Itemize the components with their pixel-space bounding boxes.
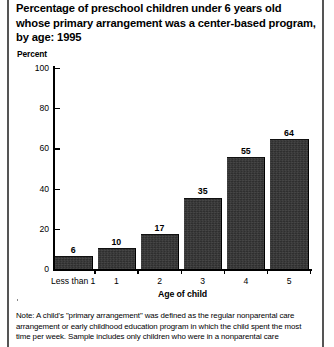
chart-title: Percentage of preschool children under 6…: [16, 1, 316, 45]
bar-value-label: 6: [71, 245, 76, 255]
stray-speck: [17, 299, 18, 301]
bar-value-label: 10: [111, 237, 121, 247]
page-right-rule: [322, 0, 324, 347]
plot-area: 020406080100 61017355564 Less than 11234…: [53, 66, 312, 271]
y-tick-label: 0: [44, 264, 49, 274]
y-tick-mark: [55, 189, 60, 190]
y-axis-line: [53, 66, 55, 271]
x-tick-mark: [224, 269, 225, 274]
y-tick-mark: [55, 148, 60, 149]
bar: [184, 198, 222, 270]
bar-value-label: 35: [198, 186, 208, 196]
y-tick-mark: [55, 108, 60, 109]
x-tick-label: Less than 1: [51, 276, 95, 286]
x-tick-mark: [181, 269, 182, 274]
bar: [270, 139, 308, 269]
y-tick-label: 40: [39, 184, 49, 194]
y-tick-label: 80: [39, 103, 49, 113]
bar: [227, 157, 265, 269]
x-tick-mark: [94, 269, 95, 274]
x-tick-label: 1: [114, 276, 119, 286]
bar: [98, 248, 136, 269]
x-tick-label: 5: [287, 276, 292, 286]
figure-note: Note: A child's "primary arrangement" wa…: [16, 311, 315, 343]
x-tick-mark: [137, 269, 138, 274]
x-tick-mark: [310, 269, 311, 274]
x-tick-label: 3: [200, 276, 205, 286]
x-tick-mark: [267, 269, 268, 274]
y-tick-label: 100: [35, 63, 49, 73]
bar: [141, 234, 179, 269]
x-axis-line: [53, 269, 312, 271]
bar: [55, 256, 93, 269]
x-axis-title: Age of child: [53, 289, 312, 299]
x-tick-label: 2: [157, 276, 162, 286]
y-axis-unit-label: Percent: [17, 49, 47, 59]
bar-value-label: 17: [155, 223, 165, 233]
y-tick-label: 20: [39, 224, 49, 234]
y-tick-mark: [55, 68, 60, 69]
x-tick-label: 4: [243, 276, 248, 286]
page-left-rule: [7, 0, 9, 347]
bar-value-label: 55: [241, 146, 251, 156]
y-tick-mark: [55, 269, 60, 270]
y-tick-label: 60: [39, 143, 49, 153]
bar-value-label: 64: [284, 128, 294, 138]
figure-page: Percentage of preschool children under 6…: [0, 0, 334, 347]
y-tick-mark: [55, 229, 60, 230]
